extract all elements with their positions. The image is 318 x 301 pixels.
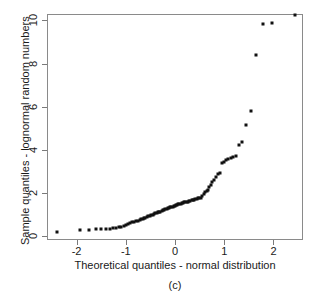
data-point: [95, 228, 98, 231]
data-point: [213, 179, 216, 182]
data-point: [88, 228, 91, 231]
y-tick-label: 4: [27, 143, 39, 157]
x-tick-label: 0: [172, 245, 178, 257]
y-tick-label: 0: [27, 229, 39, 243]
data-point: [235, 155, 238, 158]
data-point: [218, 171, 221, 174]
y-tick-label: 10: [27, 13, 39, 27]
y-tick-label: 6: [27, 100, 39, 114]
x-axis-title: Theoretical quantiles - normal distribut…: [47, 259, 303, 271]
data-point: [55, 231, 58, 234]
qq-plot-figure: Sample quantiles - lognormal random numb…: [0, 0, 318, 301]
y-tick-label: 2: [27, 186, 39, 200]
data-point: [254, 54, 257, 57]
data-point: [261, 22, 264, 25]
data-point: [207, 188, 210, 191]
y-tick-label: 8: [27, 57, 39, 71]
x-tick-label: 2: [270, 245, 276, 257]
data-point: [78, 229, 81, 232]
plot-frame: [47, 14, 303, 240]
data-point: [245, 123, 248, 126]
data-point: [208, 186, 211, 189]
data-point: [214, 175, 217, 178]
data-point: [241, 141, 244, 144]
y-axis-title: Sample quantiles - lognormal random numb…: [19, 19, 31, 245]
data-point: [104, 227, 107, 230]
x-tick-label: -2: [72, 245, 82, 257]
x-tick-label: -1: [121, 245, 131, 257]
data-point: [294, 14, 297, 17]
data-point: [100, 227, 103, 230]
data-point: [249, 110, 252, 113]
scatter-series: [48, 15, 302, 239]
figure-caption: (c): [47, 279, 303, 291]
x-tick-label: 1: [221, 245, 227, 257]
data-point: [271, 22, 274, 25]
data-point: [238, 144, 241, 147]
